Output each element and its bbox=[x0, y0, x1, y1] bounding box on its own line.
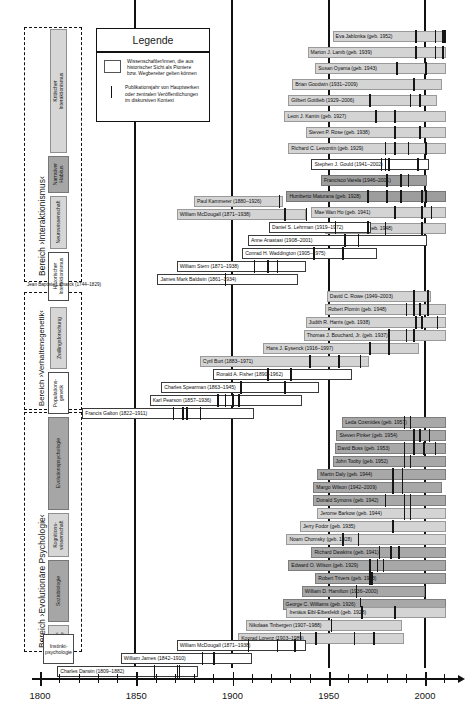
person-row[interactable]: Stephen J. Gould (1941–2002) bbox=[311, 159, 428, 170]
person-label: Marion J. Lamb (geb. 1939) bbox=[311, 48, 372, 57]
person-row[interactable]: Marion J. Lamb (geb. 1939) bbox=[308, 47, 447, 58]
person-row[interactable]: Edward O. Wilson (geb. 1929) bbox=[288, 560, 446, 571]
category-label: Instinkt- psychologie bbox=[45, 643, 72, 655]
person-row[interactable]: John Tooby (geb. 1952) bbox=[333, 456, 447, 467]
person-label: William McDougall (1871–1938) bbox=[180, 641, 251, 650]
person-row[interactable]: Mae Wan Ho (geb. 1941) bbox=[311, 207, 446, 218]
publication-marker bbox=[435, 46, 437, 59]
person-label: Ronald A. Fisher (1890–1962) bbox=[216, 370, 283, 379]
person-row[interactable]: Judith R. Harris (geb. 1938) bbox=[306, 317, 447, 328]
person-row[interactable]: Noam Chomsky (geb. 1928) bbox=[286, 534, 446, 545]
person-label: Martin Daly (geb. 1944) bbox=[320, 470, 372, 479]
person-row[interactable]: William James (1842–1910) bbox=[121, 653, 252, 664]
person-row[interactable]: Brian Goodwin (1931–2009) bbox=[292, 79, 442, 90]
axis-tick-minor bbox=[444, 674, 445, 683]
person-row[interactable]: Leon J. Kamin (geb. 1927) bbox=[284, 111, 446, 122]
publication-marker bbox=[344, 234, 346, 247]
person-label: Judith R. Harris (geb. 1938) bbox=[309, 318, 370, 327]
axis-tick-minor bbox=[406, 674, 407, 683]
person-row[interactable]: Ronald A. Fisher (1890–1962) bbox=[213, 369, 352, 380]
person-row[interactable]: William McDougall (1871–1938) bbox=[177, 209, 306, 220]
publication-marker bbox=[213, 652, 215, 665]
publication-marker bbox=[406, 303, 408, 316]
publication-marker bbox=[398, 546, 400, 559]
axis-arrow-icon bbox=[458, 675, 465, 683]
publication-marker bbox=[421, 190, 423, 203]
person-row[interactable]: Nikolaas Tinbergen (1907–1988) bbox=[246, 620, 402, 631]
person-row[interactable]: Gilbert Gottlieb (1929–2006) bbox=[288, 95, 436, 106]
person-label: Brian Goodwin (1931–2009) bbox=[295, 80, 357, 89]
person-row[interactable]: Margo Wilson (1942–2009) bbox=[313, 482, 442, 493]
person-row[interactable]: Conrad H. Waddington (1905–1975) bbox=[242, 248, 377, 259]
person-row[interactable]: Eva Jablonka (geb. 1952) bbox=[333, 31, 447, 42]
person-row[interactable]: Humberto Maturana (geb. 1928) bbox=[286, 191, 446, 202]
person-row[interactable]: Francis Galton (1822–1911) bbox=[82, 408, 253, 419]
person-row[interactable]: Thomas J. Bouchard, Jr. (geb. 1937) bbox=[304, 330, 446, 341]
person-row[interactable]: Charles Spearman (1863–1945) bbox=[161, 382, 319, 393]
publication-marker bbox=[284, 381, 286, 394]
publication-marker bbox=[369, 559, 371, 572]
person-row[interactable]: Richard Dawkins (geb. 1941) bbox=[311, 547, 446, 558]
person-row[interactable]: Robert Plomin (geb. 1948) bbox=[325, 304, 446, 315]
person-row[interactable]: Steven P. Rose (geb. 1938) bbox=[306, 127, 447, 138]
person-label: David C. Rowe (1949–2003) bbox=[330, 292, 393, 301]
publication-marker bbox=[413, 329, 415, 342]
person-row[interactable]: Steven Pinker (geb. 1954) bbox=[336, 430, 446, 441]
publication-marker bbox=[394, 206, 396, 219]
person-row[interactable]: Leda Cosmides (geb. 1957) bbox=[342, 417, 446, 428]
axis-tick-label: 2000 bbox=[415, 690, 436, 701]
person-row[interactable]: Robert Trivers (geb. 1943) bbox=[315, 573, 446, 584]
person-row[interactable]: David C. Rowe (1949–2003) bbox=[327, 291, 431, 302]
publication-marker bbox=[410, 455, 412, 468]
person-row[interactable]: Anne Anastasi (1908–2001) bbox=[248, 235, 427, 246]
publication-marker bbox=[408, 142, 410, 155]
publication-marker bbox=[421, 206, 423, 219]
axis-tick-label: 1950 bbox=[318, 690, 339, 701]
person-row[interactable]: Donald Symons (geb. 1942) bbox=[313, 495, 446, 506]
person-label: Anne Anastasi (1908–2001) bbox=[251, 236, 313, 245]
axis-tick-minor bbox=[194, 674, 195, 683]
person-row[interactable]: Susan Oyama (geb. 1943) bbox=[315, 63, 446, 74]
person-row[interactable]: Cyril Burt (1883–1971) bbox=[200, 356, 369, 367]
person-row[interactable]: William McDougall (1871–1938) bbox=[177, 640, 306, 651]
publication-marker bbox=[385, 142, 387, 155]
axis-tick-minor bbox=[59, 674, 60, 683]
legend-title: Legende bbox=[97, 29, 209, 51]
gridline-1900 bbox=[231, 0, 233, 668]
publication-marker bbox=[423, 442, 425, 455]
publication-marker bbox=[410, 416, 412, 429]
person-row[interactable]: Francisco Varela (1946–2001) bbox=[321, 175, 427, 186]
publication-marker bbox=[309, 355, 311, 368]
person-row[interactable]: William D. Hamilton (1936–2000) bbox=[302, 586, 425, 597]
publication-marker bbox=[238, 394, 240, 407]
person-label: Francisco Varela (1946–2001) bbox=[324, 176, 391, 185]
publication-marker bbox=[396, 62, 398, 75]
publication-marker bbox=[248, 639, 250, 652]
person-row[interactable]: Jerry Fodor (geb. 1935) bbox=[300, 521, 446, 532]
person-row[interactable]: Irenäus Eibl-Eibesfeldt (geb. 1928) bbox=[286, 607, 446, 618]
publication-marker bbox=[392, 468, 394, 481]
person-row[interactable]: Paul Kammerer (1880–1926) bbox=[194, 196, 283, 207]
person-row[interactable]: Karl Pearson (1857–1936) bbox=[150, 395, 302, 406]
publication-marker bbox=[410, 94, 412, 107]
publication-line-icon bbox=[104, 86, 119, 104]
publication-marker bbox=[335, 221, 337, 234]
person-row[interactable]: Martin Daly (geb. 1944) bbox=[317, 469, 446, 480]
person-row[interactable]: Jerome Barkow (geb. 1944) bbox=[317, 508, 446, 519]
person-row[interactable]: Richard C. Lewontin (geb. 1929) bbox=[288, 143, 446, 154]
publication-marker bbox=[415, 316, 417, 329]
person-label: Robert Plomin (geb. 1948) bbox=[328, 305, 387, 314]
person-row[interactable]: David Buss (geb. 1953) bbox=[335, 443, 447, 454]
publication-marker bbox=[386, 174, 388, 187]
axis-tick-minor bbox=[175, 674, 176, 683]
category-populationsgenetik: Populations- genetik bbox=[48, 372, 69, 414]
axis-tick-minor bbox=[213, 674, 214, 683]
person-row[interactable]: Hans J. Eysenck (1916–1997) bbox=[263, 343, 419, 354]
person-row[interactable]: Daniel S. Lehrman (1919–1972) bbox=[269, 222, 371, 233]
publication-marker bbox=[425, 142, 427, 155]
person-row[interactable]: William Stern (1871–1938) bbox=[177, 261, 306, 272]
axis-line bbox=[32, 678, 458, 680]
publication-marker bbox=[225, 273, 227, 286]
publication-marker bbox=[267, 368, 269, 381]
person-row[interactable]: James Mark Baldwin (1861–1934) bbox=[157, 274, 298, 285]
